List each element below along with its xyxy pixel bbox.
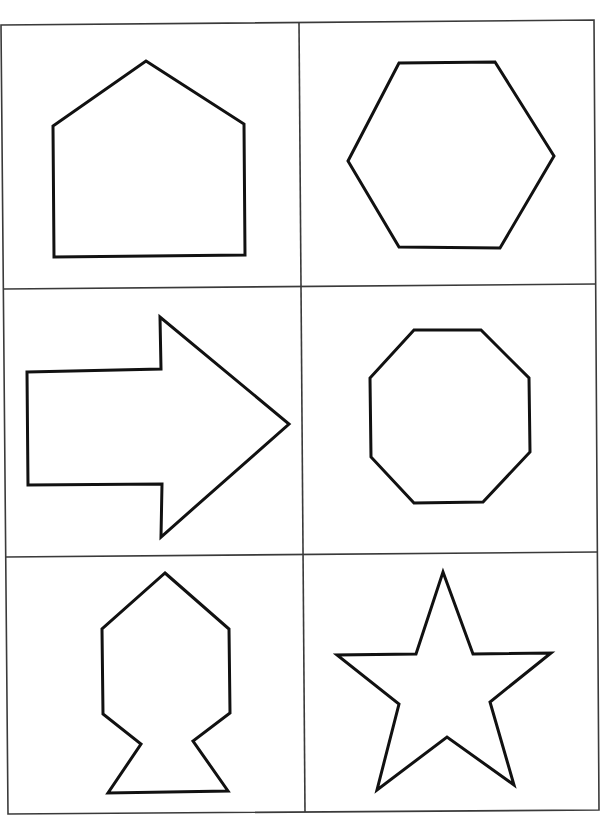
arrow-outline [27,317,289,537]
worksheet-canvas [0,0,600,821]
octagon-outline [370,330,530,503]
horizontal-divider-2 [6,552,598,557]
vertical-divider [299,23,305,812]
grid-lines [1,20,599,814]
star-outline [337,572,551,790]
fish-shape-outline [102,573,230,793]
pentagon-house-outline [53,61,245,257]
shape-outlines [27,61,554,793]
horizontal-divider-1 [4,284,596,289]
shapes-worksheet: pentagon hexagon arrow octagon fish star [0,0,600,821]
hexagon-outline [348,62,554,248]
